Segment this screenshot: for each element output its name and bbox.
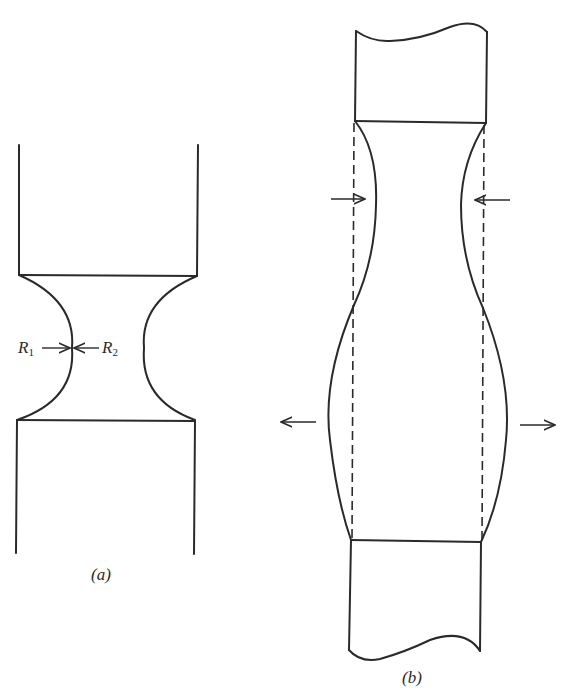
upper-shoulder-line: [19, 275, 197, 276]
top-shoulder-line: [355, 121, 486, 123]
r2-label-subscript: 2: [112, 346, 118, 358]
lower-shank-left-edge: [16, 420, 17, 553]
original-outline-left-dashed: [352, 123, 354, 540]
deformed-left-convex: [328, 305, 354, 540]
bottom-grip-wavy-break: [349, 636, 480, 660]
original-outline-right-dashed: [482, 125, 484, 541]
lower-shoulder-line: [17, 420, 195, 421]
top-grip-right-edge: [486, 32, 487, 123]
r1-label: R1: [18, 338, 34, 358]
deformed-right-concave: [461, 123, 486, 308]
top-grip-left-edge: [355, 31, 356, 121]
top-grip-wavy-break: [356, 23, 487, 41]
r2-label-text: R: [102, 338, 112, 357]
bottom-grip-right-edge: [480, 542, 481, 651]
bottom-shoulder-line: [351, 540, 481, 542]
figure-b: [281, 23, 555, 659]
deformed-left-concave: [354, 121, 376, 305]
figure-b-caption: (b): [402, 668, 422, 688]
bottom-grip-left-edge: [349, 540, 351, 650]
upper-shank-right-edge: [197, 145, 198, 275]
figure-a-caption: (a): [91, 565, 111, 585]
lower-shank-right-edge: [194, 421, 195, 554]
r1-label-text: R: [18, 338, 28, 357]
deformed-right-convex: [481, 308, 507, 542]
r1-label-subscript: 1: [28, 346, 34, 358]
diagram-canvas: [0, 0, 566, 697]
r2-label: R2: [102, 338, 118, 358]
neck-right-arc: [144, 276, 197, 420]
